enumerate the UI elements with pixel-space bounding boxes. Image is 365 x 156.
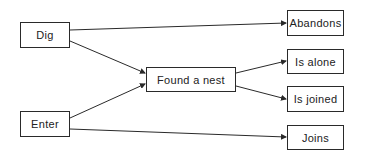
- node-dig-label: Dig: [36, 29, 53, 41]
- node-enter-label: Enter: [31, 118, 59, 130]
- edge-enter-found: [70, 84, 145, 118]
- node-is-joined: Is joined: [287, 86, 344, 112]
- node-found-a-nest: Found a nest: [146, 67, 236, 92]
- node-joined-label: Is joined: [294, 93, 338, 105]
- node-joins: Joins: [287, 125, 344, 150]
- edge-enter-joins: [70, 129, 286, 137]
- node-alone-label: Is alone: [295, 56, 336, 68]
- node-dig: Dig: [20, 22, 70, 48]
- node-is-alone: Is alone: [287, 49, 344, 74]
- edge-dig-abandons: [70, 23, 286, 30]
- edge-found-alone: [236, 61, 286, 73]
- edge-found-joined: [236, 86, 286, 99]
- edge-dig-found: [70, 41, 145, 73]
- node-joins-label: Joins: [302, 132, 329, 144]
- node-abandons-label: Abandons: [290, 17, 342, 29]
- node-found-label: Found a nest: [157, 74, 225, 86]
- node-enter: Enter: [20, 111, 70, 137]
- node-abandons: Abandons: [287, 10, 344, 36]
